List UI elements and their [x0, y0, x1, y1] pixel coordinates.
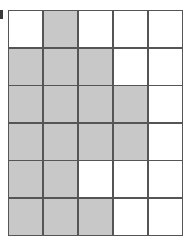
- grid-cell-r2-c5: [149, 49, 182, 85]
- grid-cell-r2-c4: [114, 49, 147, 85]
- grid-cell-r6-c1: [9, 199, 42, 235]
- grid-cell-r6-c3: [79, 199, 112, 235]
- grid-cell-r4-c4: [114, 124, 147, 160]
- grid-cell-r2-c3: [79, 49, 112, 85]
- figure-canvas: [0, 0, 189, 242]
- grid-cell-r1-c5: [149, 11, 182, 47]
- grid-cell-r5-c3: [79, 161, 112, 197]
- grid-cell-r2-c1: [9, 49, 42, 85]
- grid-cell-r3-c2: [44, 86, 77, 122]
- grid-cell-r5-c4: [114, 161, 147, 197]
- grid-cell-r4-c3: [79, 124, 112, 160]
- grid-cell-r4-c2: [44, 124, 77, 160]
- grid-cell-r2-c2: [44, 49, 77, 85]
- grid-cell-r4-c1: [9, 124, 42, 160]
- grid-cell-r6-c2: [44, 199, 77, 235]
- left-edge-tick-icon: [0, 10, 3, 19]
- grid-cell-r5-c2: [44, 161, 77, 197]
- grid-cell-r3-c1: [9, 86, 42, 122]
- grid-cell-r3-c4: [114, 86, 147, 122]
- grid-cell-r1-c2: [44, 11, 77, 47]
- grid-cell-r1-c1: [9, 11, 42, 47]
- grid-cell-r3-c5: [149, 86, 182, 122]
- grid-cell-r5-c1: [9, 161, 42, 197]
- grid-cell-r3-c3: [79, 86, 112, 122]
- grid-cell-r5-c5: [149, 161, 182, 197]
- grid-cell-r6-c5: [149, 199, 182, 235]
- shaded-grid: [8, 10, 183, 236]
- grid-cell-r4-c5: [149, 124, 182, 160]
- grid-cell-r1-c3: [79, 11, 112, 47]
- grid-cell-r6-c4: [114, 199, 147, 235]
- grid-cell-r1-c4: [114, 11, 147, 47]
